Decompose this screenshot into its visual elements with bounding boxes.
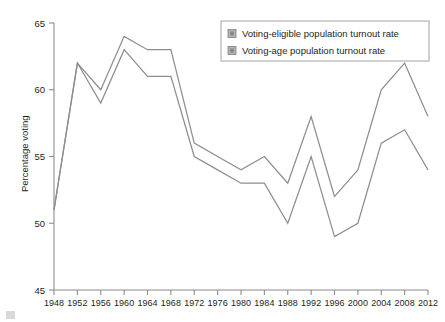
- x-tick-label-1984: 1984: [254, 298, 274, 308]
- x-tick-label-1956: 1956: [91, 298, 111, 308]
- x-axis-tick-labels: 1948195219561960196419681972197619801984…: [44, 298, 438, 308]
- y-tick-label-45: 45: [34, 285, 45, 296]
- x-tick-label-2000: 2000: [348, 298, 368, 308]
- x-tick-label-2012: 2012: [418, 298, 438, 308]
- x-tick-label-1952: 1952: [67, 298, 87, 308]
- x-tick-label-1968: 1968: [161, 298, 181, 308]
- turnout-line-chart: Percentage voting 65 60 55 50 45 1948195…: [0, 0, 445, 322]
- y-axis-title: Percentage voting: [19, 115, 30, 192]
- y-tick-label-50: 50: [34, 218, 45, 229]
- legend-swatch-inner-icon: [230, 49, 234, 53]
- legend: Voting-eligible population turnout rate …: [221, 21, 429, 61]
- legend-swatch-inner-icon: [230, 32, 234, 36]
- x-tick-label-1972: 1972: [184, 298, 204, 308]
- y-tick-label-55: 55: [34, 151, 45, 162]
- x-tick-label-1960: 1960: [114, 298, 134, 308]
- x-tick-label-1996: 1996: [324, 298, 344, 308]
- x-tick-label-2004: 2004: [371, 298, 391, 308]
- y-tick-label-65: 65: [34, 18, 45, 29]
- x-tick-label-1988: 1988: [278, 298, 298, 308]
- legend-item-voting-eligible[interactable]: Voting-eligible population turnout rate: [228, 28, 399, 39]
- x-tick-label-1964: 1964: [137, 298, 157, 308]
- x-tick-label-2008: 2008: [395, 298, 415, 308]
- legend-item-voting-age[interactable]: Voting-age population turnout rate: [228, 45, 385, 56]
- legend-label-voting-age: Voting-age population turnout rate: [242, 45, 385, 56]
- y-axis-title-text: Percentage voting: [19, 115, 30, 192]
- x-tick-label-1980: 1980: [231, 298, 251, 308]
- x-tick-label-1948: 1948: [44, 298, 64, 308]
- x-tick-label-1992: 1992: [301, 298, 321, 308]
- corner-marker: [6, 311, 15, 319]
- x-tick-label-1976: 1976: [208, 298, 228, 308]
- legend-label-voting-eligible: Voting-eligible population turnout rate: [242, 28, 399, 39]
- y-tick-label-60: 60: [34, 84, 45, 95]
